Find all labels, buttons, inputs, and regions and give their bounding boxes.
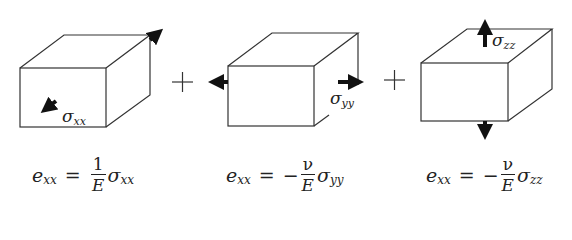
eq-rhs: σ — [317, 164, 330, 186]
eq-rhs-sub: yy — [330, 173, 344, 187]
eq-equals: = — [259, 164, 275, 186]
eq-lhs-sub: xx — [237, 173, 251, 187]
label-sigma-yy: σyy — [330, 88, 355, 110]
equation-xx: exx = 1 E σxx — [32, 150, 134, 200]
equation-yy: exx = − ν E σyy — [226, 150, 344, 200]
eq-fraction: ν E — [301, 155, 315, 195]
eq-fraction: ν E — [501, 155, 515, 195]
eq-rhs-sub: zz — [530, 173, 543, 187]
eq-equals: = — [65, 164, 81, 186]
eq-numerator: ν — [301, 155, 315, 175]
eq-lhs: e — [426, 164, 437, 186]
cube-xx — [20, 35, 150, 127]
eq-numerator: 1 — [91, 155, 106, 175]
eq-denominator: E — [302, 175, 314, 195]
label-sigma-zz: σzz — [492, 30, 515, 52]
eq-equals: = — [459, 164, 475, 186]
plus-sign-2 — [384, 70, 405, 90]
eq-sign: − — [483, 164, 499, 186]
eq-denominator: E — [92, 175, 104, 195]
eq-denominator: E — [502, 175, 514, 195]
cube-yy — [228, 33, 358, 126]
eq-lhs: e — [226, 164, 237, 186]
eq-rhs: σ — [108, 164, 121, 186]
eq-numerator: ν — [501, 155, 515, 175]
equation-zz: exx = − ν E σzz — [426, 150, 543, 200]
eq-rhs-sub: xx — [121, 173, 135, 187]
eq-lhs-sub: xx — [43, 173, 57, 187]
eq-lhs: e — [32, 164, 43, 186]
plus-sign-1 — [172, 72, 193, 92]
eq-rhs: σ — [517, 164, 530, 186]
eq-fraction: 1 E — [91, 155, 106, 195]
eq-sign: − — [283, 164, 299, 186]
eq-lhs-sub: xx — [437, 173, 451, 187]
